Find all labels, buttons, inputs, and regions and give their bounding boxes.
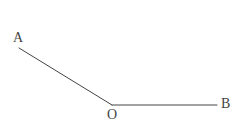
figure-canvas: A O B	[0, 0, 240, 125]
vertex-label-o: O	[107, 108, 117, 122]
vertex-label-a: A	[13, 31, 23, 45]
vertex-label-b: B	[221, 97, 230, 111]
angle-diagram-svg	[0, 0, 240, 125]
ray-oa-line	[19, 48, 112, 105]
